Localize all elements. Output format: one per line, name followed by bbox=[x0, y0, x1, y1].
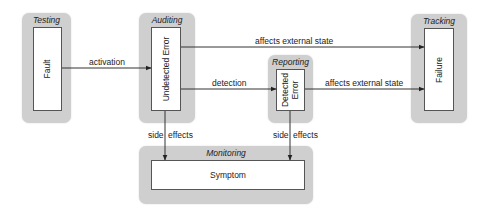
node-detected-error: Detected Error bbox=[276, 69, 305, 111]
node-label-fault: Fault bbox=[43, 60, 53, 79]
node-fault: Fault bbox=[33, 27, 62, 111]
node-failure: Failure bbox=[424, 28, 454, 111]
group-label-tracking: Tracking bbox=[411, 16, 467, 27]
group-label-reporting: Reporting bbox=[268, 57, 313, 68]
node-symptom: Symptom bbox=[151, 160, 305, 190]
node-label-detected-error-line2: Error bbox=[291, 73, 301, 107]
edge-label-side-left-2: side bbox=[273, 130, 289, 140]
edge-label-activation: activation bbox=[89, 57, 125, 67]
group-label-monitoring: Monitoring bbox=[139, 148, 313, 159]
node-label-detected-error-line1: Detected bbox=[281, 73, 291, 107]
edge-label-effects-left-1: effects bbox=[168, 130, 193, 140]
node-label-undetected-error: Undetected Error bbox=[161, 37, 171, 102]
group-label-auditing: Auditing bbox=[139, 15, 195, 26]
edge-label-effects-left-2: effects bbox=[293, 130, 318, 140]
group-label-testing: Testing bbox=[22, 15, 71, 26]
node-label-detected-error: Detected Error bbox=[281, 73, 301, 107]
edge-label-detection: detection bbox=[212, 78, 247, 88]
node-undetected-error: Undetected Error bbox=[151, 27, 181, 111]
edge-label-affects-external-state-top: affects external state bbox=[255, 36, 333, 46]
node-label-symptom: Symptom bbox=[210, 170, 246, 180]
edge-label-affects-external-state-bottom: affects external state bbox=[325, 78, 403, 88]
node-label-failure: Failure bbox=[434, 57, 444, 83]
edge-label-side-left-1: side bbox=[148, 130, 164, 140]
